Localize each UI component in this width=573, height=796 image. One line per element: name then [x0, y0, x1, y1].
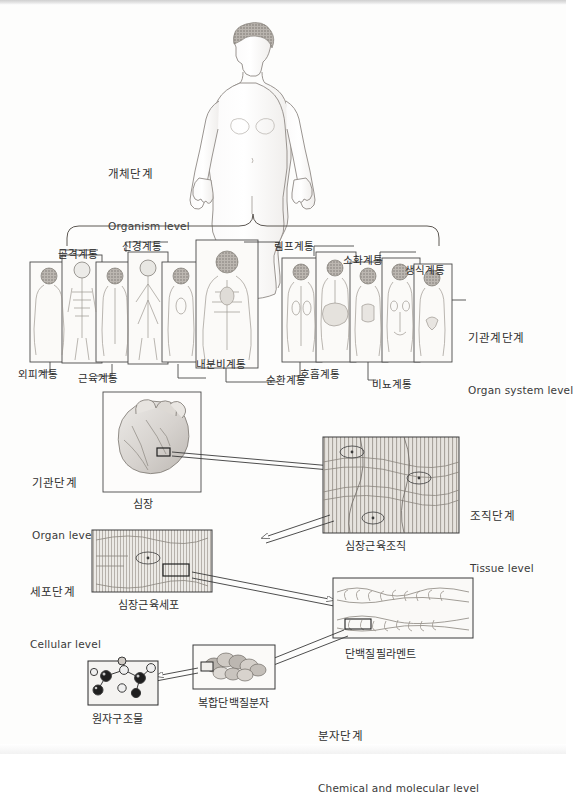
level-label-molecular: 분자단계 Chemical and molecular level — [318, 690, 479, 796]
caption-atomic-structure: 원자구조물 — [92, 710, 143, 726]
level-label-molecular-ko: 분자단계 — [318, 729, 479, 743]
level-label-molecular-en: Chemical and molecular level — [318, 782, 479, 795]
caption-complex-protein-molecule: 복합단백질분자 — [198, 694, 269, 710]
